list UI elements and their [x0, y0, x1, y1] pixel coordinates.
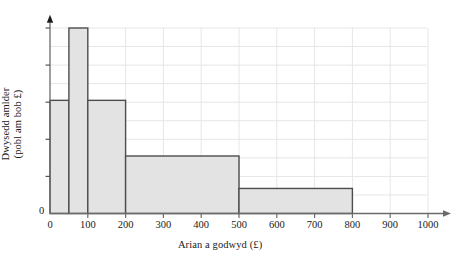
- histogram-bar: [50, 100, 69, 213]
- histogram-bar: [88, 100, 126, 213]
- y-axis-label-line2: (pobl am bob £): [12, 64, 24, 184]
- histogram-bar: [126, 156, 239, 214]
- x-axis-tick-label: 1000: [403, 219, 453, 230]
- histogram-bar: [69, 28, 88, 214]
- y-axis-label-line1: Dwysedd amlder: [0, 64, 12, 184]
- y-axis-label: Dwysedd amlder (pobl am bob £): [0, 64, 24, 184]
- x-axis-arrow: [443, 210, 451, 216]
- histogram-chart: Dwysedd amlder (pobl am bob £) Arian a g…: [0, 0, 464, 262]
- x-axis-label: Arian a godwyd (£): [120, 239, 320, 250]
- histogram-bar: [239, 188, 352, 213]
- y-axis-zero-label: 0: [39, 205, 44, 216]
- y-axis-arrow: [47, 15, 53, 23]
